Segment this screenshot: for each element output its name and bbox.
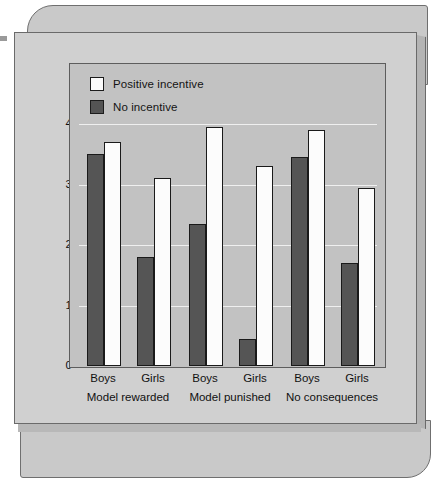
bar-model-punished-boys-positive-incentive [206,127,223,366]
gridline-1 [79,306,377,307]
gridline-4 [79,124,377,125]
group-label-model-rewarded: Model rewarded [87,391,169,403]
legend-swatch-icon-none [90,100,104,114]
figure-stage: Mean number of different imitative respo… [0,0,443,485]
bar-no-consequences-girls-no-incentive [341,263,358,366]
bar-model-punished-boys-no-incentive [189,224,206,366]
legend-label-positive: Positive incentive [113,78,204,90]
bar-no-consequences-boys-no-incentive [291,157,308,366]
gridline-2 [79,245,377,246]
group-label-no-consequences: No consequences [286,391,378,403]
bar-no-consequences-girls-positive-incentive [358,188,375,366]
bar-model-punished-girls-no-incentive [239,339,256,366]
legend-swatch-icon-positive [90,77,104,91]
legend-item-no-incentive: No incentive [90,97,270,116]
legend-label-none: No incentive [113,101,177,113]
page-edge-right [417,35,426,429]
legend-item-positive-incentive: Positive incentive [90,74,270,93]
bar-model-rewarded-boys-no-incentive [87,154,104,366]
x-tick-label-model-punished-girls: Girls [243,372,267,384]
page-margin-mark [0,36,7,41]
x-tick-label-model-rewarded-boys: Boys [90,372,116,384]
chart-legend: Positive incentive No incentive [90,74,270,120]
x-tick-label-no-consequences-boys: Boys [294,372,320,384]
plot-area [79,124,377,366]
x-tick-label-no-consequences-girls: Girls [345,372,369,384]
chart-plot-frame: Positive incentive No incentive [69,63,386,368]
bar-no-consequences-boys-positive-incentive [308,130,325,366]
page-edge-bottom [18,424,421,432]
bar-model-rewarded-boys-positive-incentive [104,142,121,366]
group-label-model-punished: Model punished [189,391,270,403]
gridline-3 [79,185,377,186]
bar-model-punished-girls-positive-incentive [256,166,273,366]
x-tick-label-model-punished-boys: Boys [192,372,218,384]
x-tick-label-model-rewarded-girls: Girls [141,372,165,384]
bar-model-rewarded-girls-no-incentive [137,257,154,366]
bar-model-rewarded-girls-positive-incentive [154,178,171,366]
